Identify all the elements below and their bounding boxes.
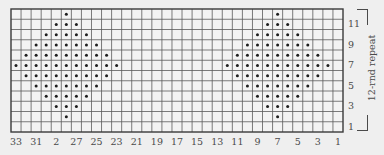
stitch-dot xyxy=(35,54,38,57)
stitch-dot xyxy=(316,74,319,77)
column-label: 33 xyxy=(6,136,26,147)
knitting-chart: 3331227252321191715131197531 1197531 12-… xyxy=(0,0,384,155)
stitch-dot xyxy=(85,64,88,67)
stitch-dot xyxy=(226,64,229,67)
stitch-dot xyxy=(75,23,78,26)
stitch-dot xyxy=(65,115,68,118)
stitch-dot xyxy=(25,74,28,77)
stitch-dot xyxy=(75,74,78,77)
column-label: 21 xyxy=(127,136,147,147)
stitch-dot xyxy=(276,33,279,36)
stitch-dot xyxy=(256,43,259,46)
stitch-dot xyxy=(45,54,48,57)
stitch-dot xyxy=(266,105,269,108)
stitch-dot xyxy=(286,33,289,36)
stitch-dot xyxy=(256,33,259,36)
stitch-dot xyxy=(286,54,289,57)
repeat-label: 12-rnd repeat xyxy=(366,35,377,101)
stitch-dot xyxy=(276,23,279,26)
stitch-dot xyxy=(306,43,309,46)
stitch-dot xyxy=(25,64,28,67)
stitch-dot xyxy=(236,74,239,77)
round-label: 5 xyxy=(348,81,354,91)
stitch-dot xyxy=(45,64,48,67)
stitch-dot xyxy=(65,43,68,46)
stitch-dot xyxy=(55,84,58,87)
stitch-dot xyxy=(246,84,249,87)
stitch-dot xyxy=(276,43,279,46)
stitch-dot xyxy=(306,74,309,77)
stitch-dot xyxy=(115,64,118,67)
stitch-dot xyxy=(296,43,299,46)
stitch-dot xyxy=(45,33,48,36)
column-label: 2 xyxy=(46,136,66,147)
stitch-dot xyxy=(75,95,78,98)
stitch-dot xyxy=(65,33,68,36)
column-label: 1 xyxy=(328,136,348,147)
round-label: 9 xyxy=(348,40,354,50)
stitch-dot xyxy=(306,54,309,57)
stitch-dot xyxy=(15,64,18,67)
stitch-dot xyxy=(75,84,78,87)
stitch-dot xyxy=(256,95,259,98)
stitch-dot xyxy=(55,105,58,108)
stitch-dot xyxy=(45,95,48,98)
column-label: 17 xyxy=(167,136,187,147)
column-label: 23 xyxy=(107,136,127,147)
stitch-dot xyxy=(286,84,289,87)
round-label: 3 xyxy=(348,101,354,111)
stitch-dot xyxy=(236,54,239,57)
stitch-dot xyxy=(286,105,289,108)
stitch-dot xyxy=(276,115,279,118)
stitch-dot xyxy=(296,95,299,98)
column-label: 27 xyxy=(66,136,86,147)
stitch-dot xyxy=(276,54,279,57)
stitch-dot xyxy=(75,54,78,57)
stitch-dot xyxy=(65,84,68,87)
stitch-dot xyxy=(246,43,249,46)
chart-grid xyxy=(0,0,384,155)
stitch-dot xyxy=(55,23,58,26)
stitch-dot xyxy=(65,54,68,57)
stitch-dot xyxy=(35,64,38,67)
stitch-dot xyxy=(256,74,259,77)
stitch-dot xyxy=(286,74,289,77)
stitch-dot xyxy=(75,105,78,108)
stitch-dot xyxy=(95,43,98,46)
stitch-dot xyxy=(95,54,98,57)
stitch-dot xyxy=(65,23,68,26)
stitch-dot xyxy=(75,33,78,36)
repeat-bracket-top xyxy=(357,9,368,25)
stitch-dot xyxy=(296,64,299,67)
stitch-dot xyxy=(286,43,289,46)
stitch-dot xyxy=(266,43,269,46)
stitch-dot xyxy=(35,84,38,87)
stitch-dot xyxy=(266,64,269,67)
stitch-dot xyxy=(105,64,108,67)
stitch-dot xyxy=(55,95,58,98)
stitch-dot xyxy=(326,64,329,67)
stitch-dot xyxy=(85,43,88,46)
column-label: 9 xyxy=(248,136,268,147)
stitch-dot xyxy=(246,54,249,57)
stitch-dot xyxy=(266,84,269,87)
stitch-dot xyxy=(256,84,259,87)
stitch-dot xyxy=(55,43,58,46)
stitch-dot xyxy=(55,74,58,77)
column-label: 15 xyxy=(187,136,207,147)
stitch-dot xyxy=(296,84,299,87)
stitch-dot xyxy=(286,64,289,67)
stitch-dot xyxy=(316,54,319,57)
stitch-dot xyxy=(105,54,108,57)
column-label: 25 xyxy=(87,136,107,147)
column-label: 7 xyxy=(268,136,288,147)
stitch-dot xyxy=(65,74,68,77)
stitch-dot xyxy=(296,74,299,77)
stitch-dot xyxy=(95,74,98,77)
column-label: 3 xyxy=(308,136,328,147)
stitch-dot xyxy=(306,64,309,67)
stitch-dot xyxy=(65,13,68,16)
stitch-dot xyxy=(55,64,58,67)
stitch-dot xyxy=(25,54,28,57)
repeat-bracket-bottom xyxy=(357,115,368,131)
